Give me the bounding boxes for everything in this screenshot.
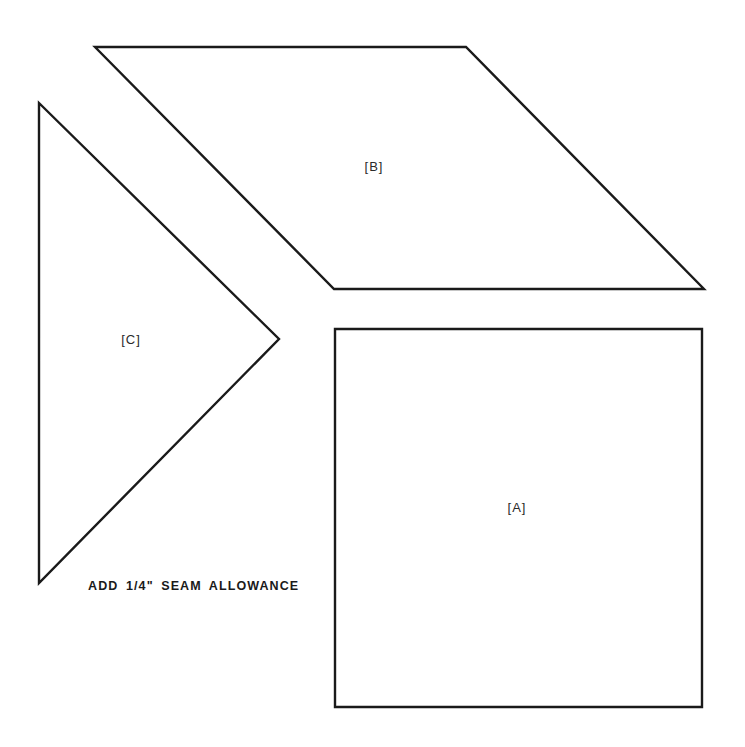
piece-a-square xyxy=(335,329,702,707)
piece-c-label: [C] xyxy=(121,332,141,347)
pattern-canvas xyxy=(0,0,745,747)
seam-allowance-note: ADD 1/4" SEAM ALLOWANCE xyxy=(88,579,299,593)
piece-a-label: [A] xyxy=(508,500,527,515)
piece-b-parallelogram xyxy=(95,47,704,289)
piece-c-triangle xyxy=(39,103,279,583)
piece-b-label: [B] xyxy=(365,159,384,174)
